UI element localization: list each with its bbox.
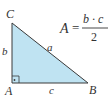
- vertex-label-c: C: [6, 7, 15, 21]
- formula-denominator: 2: [91, 30, 97, 44]
- right-angle-dot: [14, 79, 16, 81]
- side-label-b: b: [2, 45, 8, 57]
- formula-lhs: A: [59, 21, 69, 36]
- formula-numerator: b · c: [83, 12, 104, 26]
- vertex-label-b: B: [89, 83, 97, 96]
- side-label-a: a: [47, 41, 53, 53]
- side-label-c: c: [49, 84, 54, 96]
- area-formula: A = b · c 2: [59, 12, 108, 44]
- triangle-figure: C A B b a c A = b · c 2: [0, 0, 111, 96]
- vertex-label-a: A: [4, 84, 13, 96]
- formula-equals: =: [72, 20, 79, 35]
- right-triangle-diagram: C A B b a c A = b · c 2: [0, 0, 111, 96]
